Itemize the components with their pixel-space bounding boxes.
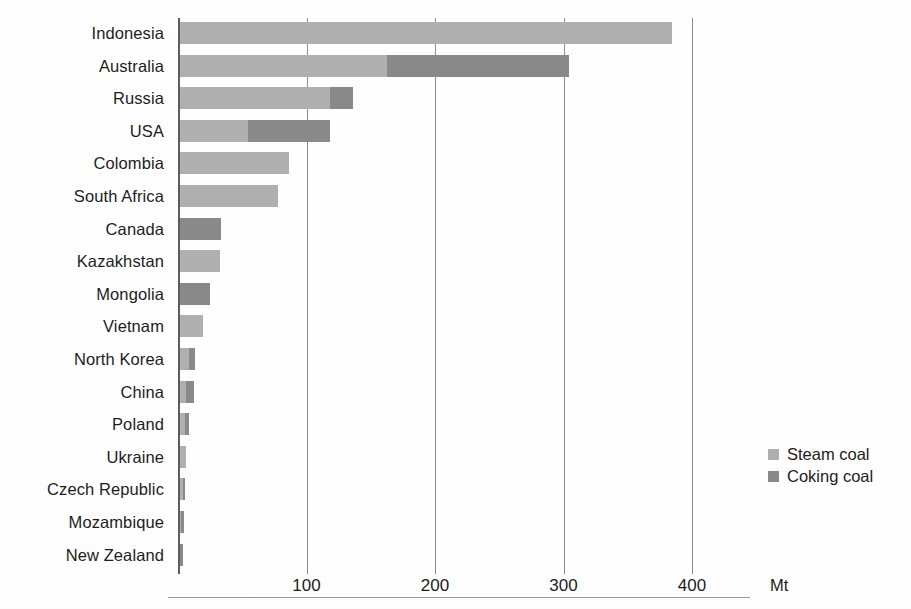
bar-segment-steam (180, 55, 387, 77)
category-label: Czech Republic (47, 481, 164, 498)
tick-mark-100 (307, 556, 308, 570)
bar-row (180, 218, 221, 240)
bar-row (180, 283, 210, 305)
bar-row (180, 120, 330, 142)
bar-segment-coking (180, 218, 221, 240)
category-label: Colombia (94, 155, 165, 172)
category-label: Kazakhstan (77, 253, 164, 270)
bar-row (180, 315, 203, 337)
bar-row (180, 22, 672, 44)
tick-mark-200 (435, 556, 436, 570)
axis-baseline-rule (168, 597, 750, 598)
category-label: Mozambique (69, 514, 164, 531)
gridline-300 (564, 18, 565, 574)
bar-row (180, 381, 194, 403)
bar-segment-coking (185, 413, 189, 435)
coal-exports-bar-chart: IndonesiaAustraliaRussiaUSAColombiaSouth… (0, 0, 911, 609)
bar-row (180, 544, 183, 566)
category-label: Poland (112, 416, 164, 433)
legend-label: Coking coal (787, 468, 873, 485)
bar-row (180, 348, 195, 370)
category-label: Vietnam (103, 318, 164, 335)
category-label: Indonesia (92, 25, 164, 42)
bar-row (180, 250, 220, 272)
category-label: Russia (113, 90, 164, 107)
tick-label: 100 (292, 576, 320, 596)
bar-row (180, 446, 186, 468)
category-label: Australia (99, 58, 164, 75)
bar-segment-coking (330, 87, 353, 109)
gridline-200 (435, 18, 436, 574)
bar-segment-steam (180, 152, 289, 174)
bar-row (180, 87, 353, 109)
bar-segment-coking (183, 478, 186, 500)
category-label: Canada (106, 221, 164, 238)
bar-segment-steam (180, 250, 220, 272)
bar-segment-steam (180, 185, 278, 207)
legend-item[interactable]: Steam coal (768, 443, 908, 465)
bar-segment-coking (180, 283, 210, 305)
bar-row (180, 511, 184, 533)
legend-swatch-icon (768, 471, 779, 482)
value-axis: Mt 100200300400 (178, 574, 738, 609)
bar-segment-steam (180, 315, 203, 337)
category-label: South Africa (74, 188, 164, 205)
axis-unit-label: Mt (770, 576, 788, 595)
bar-segment-coking (248, 120, 330, 142)
bar-row (180, 185, 278, 207)
bar-segment-steam (180, 348, 189, 370)
bar-segment-coking (181, 511, 184, 533)
legend-swatch-icon (768, 449, 779, 460)
tick-mark-400 (692, 556, 693, 570)
bar-row (180, 413, 189, 435)
category-label: Ukraine (106, 449, 164, 466)
bar-segment-steam (180, 446, 186, 468)
bar-segment-steam (180, 120, 248, 142)
tick-mark-300 (564, 556, 565, 570)
bar-row (180, 55, 569, 77)
category-label: USA (130, 123, 164, 140)
tick-label: 200 (421, 576, 449, 596)
category-axis-labels: IndonesiaAustraliaRussiaUSAColombiaSouth… (0, 18, 172, 574)
bar-segment-coking (189, 348, 195, 370)
tick-label: 400 (678, 576, 706, 596)
bar-segment-steam (180, 22, 672, 44)
chart-legend: Steam coalCoking coal (768, 443, 908, 487)
gridline-400 (692, 18, 693, 574)
bar-segment-steam (180, 87, 330, 109)
bar-segment-coking (387, 55, 569, 77)
category-label: Mongolia (96, 286, 164, 303)
plot-area (178, 18, 730, 574)
legend-item[interactable]: Coking coal (768, 465, 908, 487)
bar-segment-coking (180, 544, 183, 566)
bar-row (180, 152, 289, 174)
bar-row (180, 478, 185, 500)
category-label: North Korea (74, 351, 164, 368)
tick-label: 300 (549, 576, 577, 596)
category-label: New Zealand (66, 547, 164, 564)
legend-label: Steam coal (787, 446, 870, 463)
bar-segment-coking (186, 381, 194, 403)
category-label: China (120, 384, 164, 401)
